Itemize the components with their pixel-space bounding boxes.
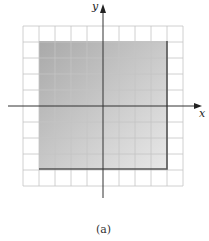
x-axis-label: x — [199, 107, 205, 120]
coordinate-diagram — [0, 0, 209, 241]
figure-caption: (a) — [96, 223, 111, 236]
y-axis-label: y — [92, 0, 98, 13]
y-axis-arrow-icon — [100, 4, 106, 13]
